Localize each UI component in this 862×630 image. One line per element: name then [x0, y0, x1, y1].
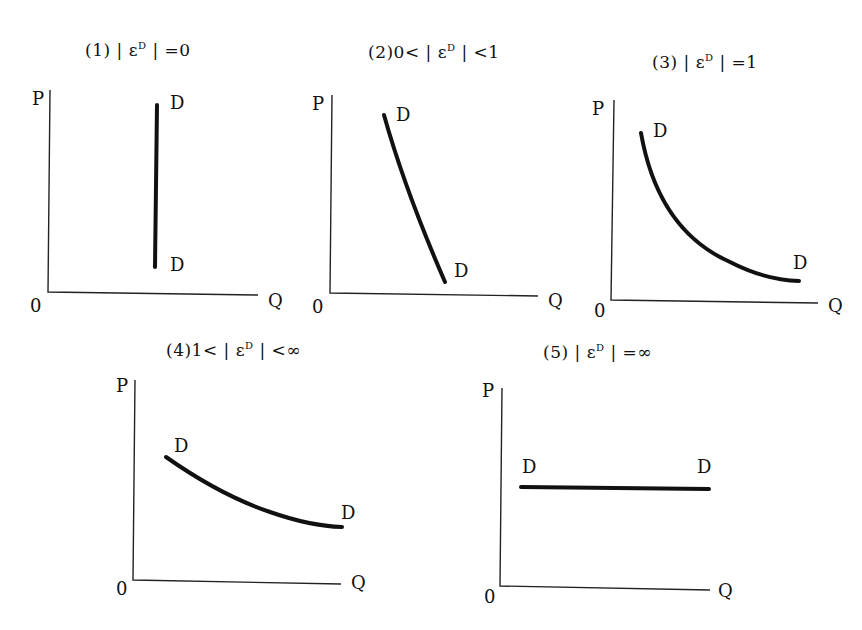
y-axis-label: P [592, 98, 604, 119]
panel-elastic: (4)1< | εD | <∞ P 0 Q D D [100, 330, 400, 630]
x-axis-label: Q [828, 295, 843, 316]
curve-label-left: D [522, 456, 536, 477]
panel-perfectly-inelastic: (1) | εD | =0 P 0 Q D D [0, 0, 290, 320]
chart-area [0, 0, 290, 320]
curve-label-top: D [396, 104, 410, 125]
panel-perfectly-elastic: (5) | εD | =∞ P 0 Q D D [460, 330, 760, 630]
axes [611, 100, 818, 303]
demand-curve [155, 105, 157, 267]
x-axis-label: Q [718, 580, 733, 601]
origin-label: 0 [312, 296, 323, 317]
chart-area [580, 0, 862, 330]
curve-label-bottom: D [454, 260, 468, 281]
origin-label: 0 [30, 295, 41, 316]
axes [48, 90, 258, 295]
panel-inelastic: (2)0< | εD | <1 P 0 Q D D [280, 0, 580, 320]
y-axis-label: P [482, 380, 494, 401]
x-axis-label: Q [548, 290, 563, 311]
curve-label-bottom: D [341, 502, 355, 523]
demand-curve [641, 133, 799, 281]
demand-curve [521, 487, 709, 489]
chart-area [460, 330, 760, 630]
chart-area [280, 0, 580, 320]
curve-label-top: D [174, 435, 188, 456]
curve-label-bottom: D [793, 252, 807, 273]
curve-label-right: D [697, 456, 711, 477]
axes [133, 380, 341, 584]
y-axis-label: P [116, 375, 128, 396]
origin-label: 0 [484, 586, 495, 607]
origin-label: 0 [116, 578, 127, 599]
demand-curve [384, 115, 445, 282]
demand-curve [166, 457, 342, 527]
curve-label-top: D [170, 92, 184, 113]
axes [330, 95, 538, 296]
x-axis-label: Q [351, 572, 366, 593]
curve-label-bottom: D [170, 254, 184, 275]
curve-label-top: D [653, 120, 667, 141]
origin-label: 0 [594, 300, 605, 321]
y-axis-label: P [32, 88, 44, 109]
panel-unit-elastic: (3) | εD | =1 P 0 Q D D [580, 0, 862, 330]
y-axis-label: P [312, 93, 324, 114]
